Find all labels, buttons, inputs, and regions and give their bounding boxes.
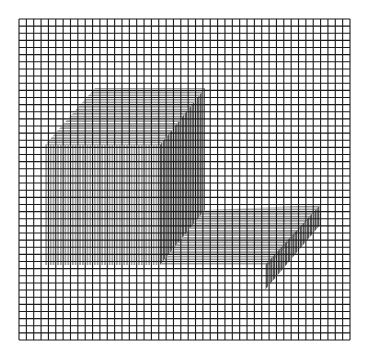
- grid-illusion-figure: [0, 0, 368, 357]
- illusion-regions: [19, 19, 350, 340]
